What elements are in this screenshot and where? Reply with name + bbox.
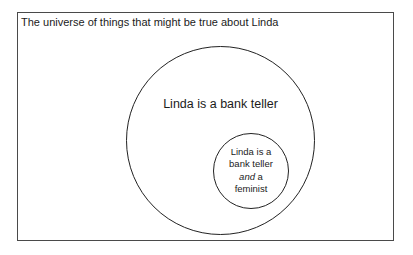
inner-label-line2: bank teller [229, 158, 273, 169]
universe-frame: The universe of things that might be tru… [17, 12, 394, 241]
inner-label-line1: Linda is a [231, 146, 272, 157]
inner-label-line3-a: a [255, 171, 263, 182]
universe-title: The universe of things that might be tru… [21, 16, 278, 29]
inner-label-line4: feminist [235, 183, 268, 194]
inner-circle-label: Linda is a bank teller and a feminist [208, 146, 294, 196]
outer-circle-label: Linda is a bank teller [126, 97, 315, 112]
inner-label-line3-and: and [239, 171, 255, 182]
outer-circle-bank-teller [126, 46, 315, 235]
